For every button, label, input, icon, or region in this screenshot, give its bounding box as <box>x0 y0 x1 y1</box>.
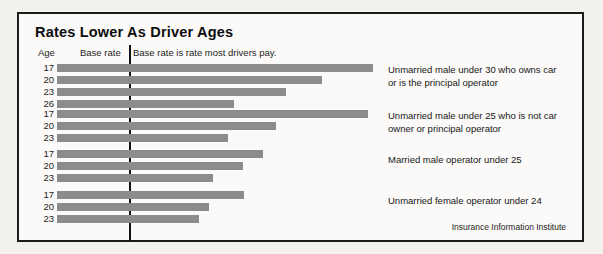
age-label: 17 <box>36 189 54 200</box>
age-label: 23 <box>36 172 54 183</box>
category-label: Unmarried male under 30 who owns car or … <box>388 64 556 89</box>
bar <box>57 203 209 211</box>
bar <box>57 64 373 72</box>
age-label: 23 <box>36 213 54 224</box>
age-label: 17 <box>36 148 54 159</box>
bar <box>57 215 199 223</box>
age-label: 23 <box>36 86 54 97</box>
bar <box>57 150 263 158</box>
category-label: Unmarried male under 25 who is not car o… <box>388 110 557 135</box>
age-label: 20 <box>36 120 54 131</box>
age-label: 20 <box>36 201 54 212</box>
bar <box>57 110 368 118</box>
age-label: 17 <box>36 62 54 73</box>
scan-background: Rates Lower As Driver Ages Age Base rate… <box>0 0 603 254</box>
bar <box>57 162 243 170</box>
bar <box>57 191 244 199</box>
category-label: Unmarried female operator under 24 <box>388 195 542 208</box>
bar <box>57 100 234 108</box>
category-label: Married male operator under 25 <box>388 154 522 167</box>
age-label: 20 <box>36 160 54 171</box>
bar <box>57 76 322 84</box>
bar <box>57 174 213 182</box>
age-label: 17 <box>36 108 54 119</box>
chart-panel: Rates Lower As Driver Ages Age Base rate… <box>17 12 584 242</box>
source-credit: Insurance Information Institute <box>452 222 566 232</box>
age-label: 20 <box>36 74 54 85</box>
bar <box>57 122 276 130</box>
age-label: 23 <box>36 132 54 143</box>
bar <box>57 88 286 96</box>
bars-plot-area: 17202326Unmarried male under 30 who owns… <box>19 14 582 240</box>
bar <box>57 134 228 142</box>
